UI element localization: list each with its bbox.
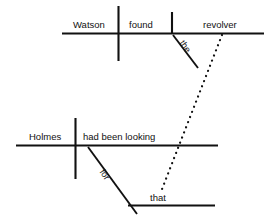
label-prep-object-that: that [150,193,166,203]
label-subject-watson: Watson [73,20,105,30]
sentence-diagram: Watson found revolver the Holmes had bee… [0,0,274,222]
label-sub-verb-had-been-looking: had been looking [83,132,155,142]
label-object-revolver: revolver [203,20,237,30]
diagram-canvas [0,0,274,222]
preposition-for-slant [88,147,137,214]
main-clause-group [62,6,264,68]
label-verb-found: found [129,20,153,30]
label-sub-subject-holmes: Holmes [29,132,61,142]
